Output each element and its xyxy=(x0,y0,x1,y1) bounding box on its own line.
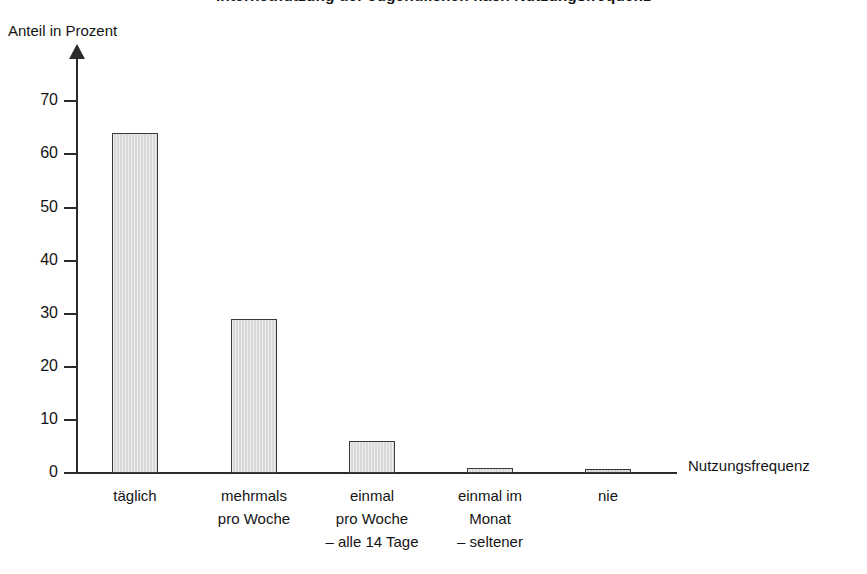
bar xyxy=(231,319,277,473)
bar xyxy=(349,441,395,473)
y-axis-line xyxy=(76,50,78,474)
y-axis-tick-label: 0 xyxy=(0,463,58,481)
bar xyxy=(112,133,158,473)
y-axis-tick xyxy=(64,313,77,315)
bar xyxy=(585,469,631,473)
y-axis-tick-label: 10 xyxy=(0,410,58,428)
y-axis-tick-label: 40 xyxy=(0,251,58,269)
y-axis-tick-label: 50 xyxy=(0,198,58,216)
y-axis-tick-label: 30 xyxy=(0,304,58,322)
y-axis-tick xyxy=(64,472,77,474)
y-axis-tick xyxy=(64,260,77,262)
y-axis-tick-label: 70 xyxy=(0,91,58,109)
y-axis-tick xyxy=(64,207,77,209)
bar-chart-plot: 010203040506070 täglichmehrmals pro Woch… xyxy=(0,0,867,574)
y-axis-tick xyxy=(64,366,77,368)
y-axis-tick xyxy=(64,153,77,155)
y-axis-tick-label: 60 xyxy=(0,144,58,162)
y-axis-tick xyxy=(64,100,77,102)
bar xyxy=(467,468,513,473)
y-axis-tick xyxy=(64,419,77,421)
x-axis-category-label: nie xyxy=(533,484,683,507)
y-axis-tick-label: 20 xyxy=(0,357,58,375)
